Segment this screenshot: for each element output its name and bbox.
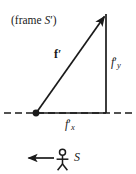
- component-x-subscript: x: [71, 122, 75, 132]
- frame-caption-prime: ′): [50, 14, 56, 26]
- observer-stick-figure: [57, 149, 69, 170]
- force-vector-label-prime: ′: [58, 47, 61, 61]
- frame-caption-prefix: (frame: [11, 14, 45, 26]
- component-x-label: f′x: [65, 118, 75, 132]
- observer-frame-label: S: [74, 151, 80, 163]
- frame-caption: (frame S′): [11, 15, 57, 27]
- force-vector-label: f′: [54, 48, 61, 60]
- observer-leg-left: [58, 164, 63, 170]
- observer-leg-right: [63, 164, 68, 170]
- force-vector-arrow: [37, 17, 105, 113]
- origin-dot: [33, 110, 40, 117]
- physics-vector-diagram: (frame S′) f′ f′y f′x S: [0, 0, 136, 174]
- observer-head-icon: [60, 149, 66, 155]
- component-y-subscript: y: [117, 60, 121, 70]
- component-y-label: f′y: [111, 56, 121, 70]
